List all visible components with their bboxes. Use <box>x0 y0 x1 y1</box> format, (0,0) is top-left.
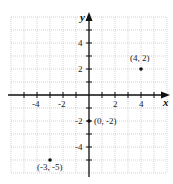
y-axis-label: y <box>78 11 85 23</box>
y-tick-label: -4 <box>75 142 83 152</box>
x-tick-label: -2 <box>58 99 66 109</box>
coordinate-plane: x y -4 -2 2 4 4 2 -2 -4 (4, 2) (0, -2) (… <box>0 0 173 184</box>
x-axis-label: x <box>162 96 169 108</box>
y-tick-label: -2 <box>75 116 83 126</box>
y-tick-label: 2 <box>78 64 83 74</box>
y-axis-arrow-icon <box>86 12 93 21</box>
x-tick-label: -4 <box>32 99 40 109</box>
point-4-2 <box>139 67 143 71</box>
x-tick-label: 2 <box>113 99 118 109</box>
point-label: (0, -2) <box>94 116 117 126</box>
point-label: (4, 2) <box>130 53 150 63</box>
x-tick-label: 4 <box>139 99 144 109</box>
data-points: (4, 2) (0, -2) (-3, -5) <box>37 53 150 172</box>
point-label: (-3, -5) <box>37 162 63 172</box>
axes: x y <box>8 11 170 177</box>
point-0-neg2 <box>87 119 91 123</box>
y-tick-label: 4 <box>78 38 83 48</box>
